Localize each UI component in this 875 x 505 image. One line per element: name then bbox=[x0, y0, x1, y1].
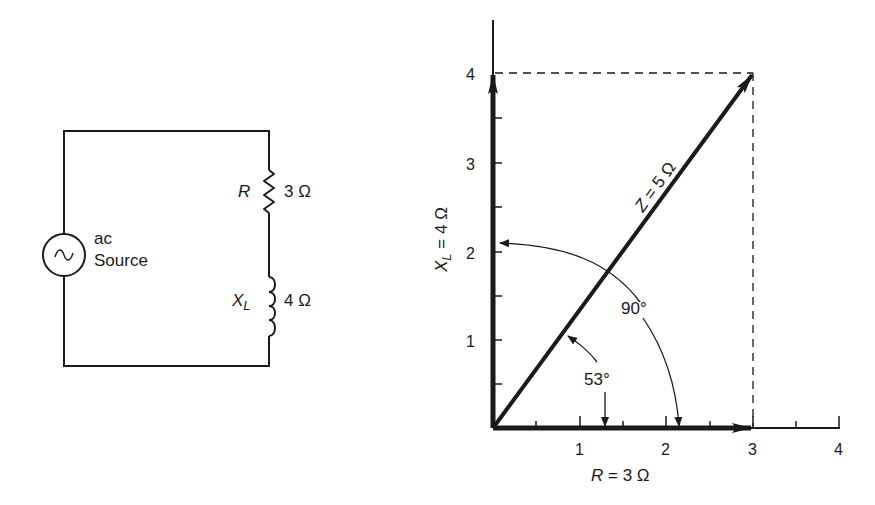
resistor-value: 3 Ω bbox=[284, 182, 311, 201]
x-tick-2: 2 bbox=[661, 441, 670, 458]
resistor-label: R bbox=[238, 182, 250, 201]
source-label-source: Source bbox=[94, 251, 148, 270]
x-tick-1: 1 bbox=[575, 441, 584, 458]
x-tick-4: 4 bbox=[834, 441, 843, 458]
z-vector-arrow bbox=[493, 75, 752, 428]
x-tick-3: 3 bbox=[748, 441, 757, 458]
source-label-ac: ac bbox=[94, 229, 112, 248]
y-tick-2: 2 bbox=[466, 245, 475, 262]
angle-90-arc bbox=[500, 243, 640, 302]
circuit: ac Source R 3 Ω XL 4 Ω bbox=[43, 131, 311, 366]
angle-90-label: 90° bbox=[621, 299, 647, 318]
angle-53-label: 53° bbox=[584, 370, 610, 389]
y-tick-4: 4 bbox=[466, 66, 475, 83]
angle-90-arc-lower bbox=[643, 318, 679, 426]
angle-53-arc bbox=[568, 336, 597, 362]
y-tick-1: 1 bbox=[466, 333, 475, 350]
inductor-value: 4 Ω bbox=[284, 291, 311, 310]
phasor-diagram: 90° 53° Z = 5 Ω 1 2 3 4 1 2 3 4 R = 3 Ω … bbox=[432, 20, 843, 485]
resistor-icon bbox=[264, 170, 274, 213]
inductor-icon bbox=[269, 277, 275, 336]
circuit-wire-bottom bbox=[64, 276, 269, 366]
x-axis-label: R = 3 Ω bbox=[591, 466, 650, 485]
diagram-canvas: ac Source R 3 Ω XL 4 Ω bbox=[0, 0, 875, 505]
inductor-label: XL bbox=[231, 291, 251, 313]
y-tick-3: 3 bbox=[466, 156, 475, 173]
y-axis-label: XL = 4 Ω bbox=[432, 207, 454, 273]
